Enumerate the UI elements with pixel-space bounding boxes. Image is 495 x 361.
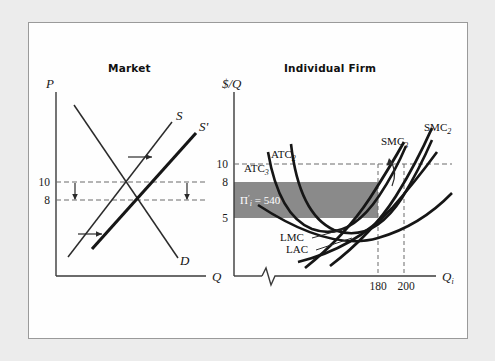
firm-xtick-200: 200 <box>397 280 415 292</box>
supply-shift-arrow-upper <box>128 154 152 160</box>
supply-shift-arrow-lower <box>78 231 102 237</box>
atc-3-label: ATC3 <box>244 162 269 177</box>
demand-curve-label: D <box>179 253 190 268</box>
diagram-canvas: P Q 10 8 S S' D <box>0 0 495 361</box>
market-ytick-10: 10 <box>39 176 51 188</box>
page-background: Market Individual Firm <box>0 0 495 361</box>
lmc-label: LMC <box>280 231 304 243</box>
firm-xtick-180: 180 <box>369 280 387 292</box>
smc-3-label: SMC3 <box>381 135 408 150</box>
supply-shift-curve <box>92 133 196 249</box>
firm-ytick-10: 10 <box>217 158 229 170</box>
axis-break-icon <box>262 268 284 285</box>
supply-curve-label: S <box>176 108 183 123</box>
profit-label: Π′i = 540 <box>240 194 281 208</box>
price-drop-arrow-left <box>72 183 78 200</box>
supply-curve <box>68 122 172 257</box>
market-x-axis-label: Q <box>212 269 222 284</box>
market-ytick-8: 8 <box>44 194 50 206</box>
firm-y-axis-label: $/Q <box>222 76 242 91</box>
price-drop-arrow-right <box>184 183 190 200</box>
firm-ytick-8: 8 <box>222 176 228 188</box>
lac-label: LAC <box>286 243 308 255</box>
firm-x-axis-label: Qi <box>442 269 454 286</box>
supply-shift-curve-label: S' <box>199 119 209 134</box>
market-y-axis-label: P <box>45 76 54 91</box>
firm-ytick-5: 5 <box>222 212 228 224</box>
firm-panel: $/Q Qi 10 8 5 180 200 Π′i = 540 ATC3 ATC… <box>217 76 454 292</box>
market-panel: P Q 10 8 S S' D <box>39 76 223 284</box>
